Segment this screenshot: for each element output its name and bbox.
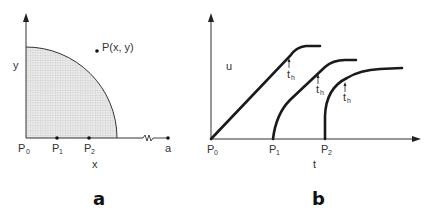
t-axis-arrow-icon [412, 136, 421, 142]
th-label-2: t [316, 83, 319, 95]
b-origin-sub: 0 [214, 149, 218, 156]
point-a [166, 136, 170, 140]
p2-sub: 2 [91, 148, 95, 155]
curve-p2 [325, 68, 402, 139]
th-label-1: t [287, 68, 290, 80]
shaded-region [26, 47, 117, 138]
diagram-canvas: P(x, y) y x P 0 P 1 P 2 a a [0, 0, 437, 215]
y-axis-label: y [13, 59, 19, 71]
p1-sub: 1 [59, 148, 63, 155]
b-p1-sub: 1 [276, 149, 280, 156]
origin-label: P [18, 142, 25, 154]
point-p2 [87, 136, 91, 140]
u-axis-label: u [226, 60, 232, 72]
origin-sub: 0 [26, 148, 30, 155]
t-axis-label: t [313, 158, 316, 170]
panel-b: t h t h t h u t P 0 P 1 P 2 b [207, 13, 421, 209]
point-p1 [55, 136, 59, 140]
end-label: a [165, 142, 172, 154]
panel-a-label: a [93, 188, 105, 209]
th-sub-1: h [291, 74, 295, 81]
x-axis-label: x [92, 158, 98, 170]
b-p2-sub: 2 [328, 149, 332, 156]
panel-b-label: b [312, 188, 325, 209]
th-sub-3: h [347, 97, 351, 104]
y-axis-arrow-icon [23, 13, 29, 22]
panel-a: P(x, y) y x P 0 P 1 P 2 a a [13, 13, 172, 209]
point-pxy-label: P(x, y) [102, 41, 134, 53]
th-label-3: t [343, 91, 346, 103]
th-sub-2: h [320, 89, 324, 96]
u-axis-arrow-icon [208, 13, 214, 22]
zigzag-break-icon [143, 135, 168, 141]
point-pxy [95, 49, 99, 53]
